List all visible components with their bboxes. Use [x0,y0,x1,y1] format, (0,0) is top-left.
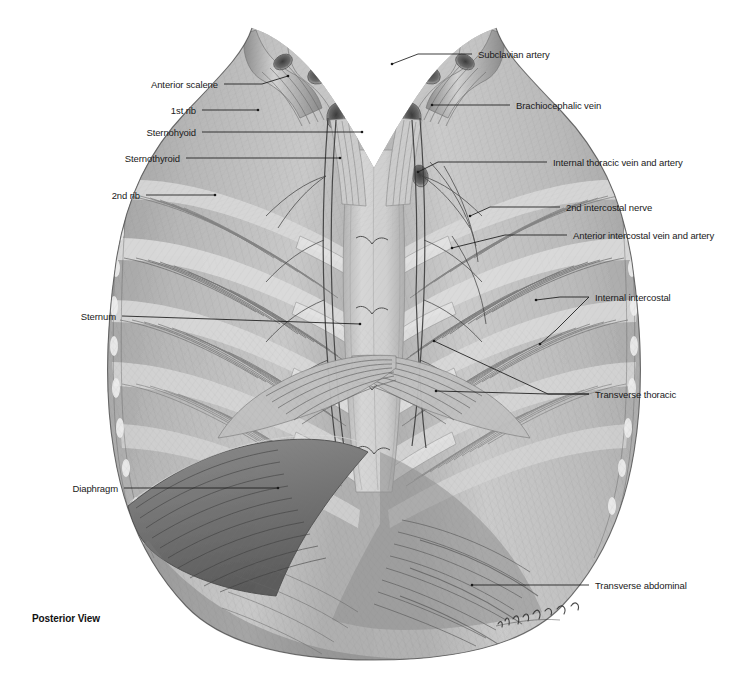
leader-endpoint [435,390,438,393]
label-brachiocephalic-vein: Brachiocephalic vein [516,100,601,111]
leader-endpoint [361,131,364,134]
leader-endpoint [391,63,394,66]
label-internal-intercostal: Internal intercostal [595,292,671,303]
label-internal-thoracic-vein-artery: Internal thoracic vein and artery [553,157,683,168]
leader-endpoint [433,340,436,343]
label-subclavian-artery: Subclavian artery [478,49,550,60]
label-second-rib: 2nd rib [112,190,140,201]
thoracic-cage-illustration [0,0,747,679]
leader-endpoint [431,104,434,107]
leader-endpoint [287,75,290,78]
leader-endpoint [535,299,538,302]
leader-endpoint [257,109,260,112]
leader-endpoint [214,194,217,197]
label-second-intercostal-nerve: 2nd intercostal nerve [566,202,652,213]
label-diaphragm: Diaphragm [72,483,118,494]
label-sternothyroid: Sternothyroid [125,153,180,164]
label-sternum: Sternum [81,311,116,322]
leader-endpoint [539,343,542,346]
leader-endpoint [359,323,362,326]
label-sternohyoid: Sternohyoid [146,127,196,138]
leader-endpoint [417,171,420,174]
label-first-rib: 1st rib [171,105,196,116]
leader-endpoint [339,157,342,160]
anatomy-figure: Anterior scalene1st ribSternohyoidSterno… [0,0,747,679]
label-anterior-intercostal-vein-artery: Anterior intercostal vein and artery [573,230,714,241]
view-caption: Posterior View [32,613,100,624]
leader-endpoint [451,247,454,250]
leader-endpoint [471,584,474,587]
label-transverse-thoracic: Transverse thoracic [595,389,676,400]
leader-endpoint [277,487,280,490]
leader-endpoint [469,215,472,218]
label-anterior-scalene: Anterior scalene [151,79,218,90]
label-transverse-abdominal: Transverse abdominal [595,580,687,591]
